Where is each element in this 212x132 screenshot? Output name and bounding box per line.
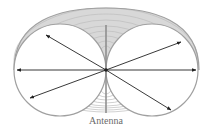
antenna-radiation-diagram (0, 0, 212, 132)
antenna-label: Antenna (0, 115, 212, 126)
feed-point (104, 68, 108, 72)
